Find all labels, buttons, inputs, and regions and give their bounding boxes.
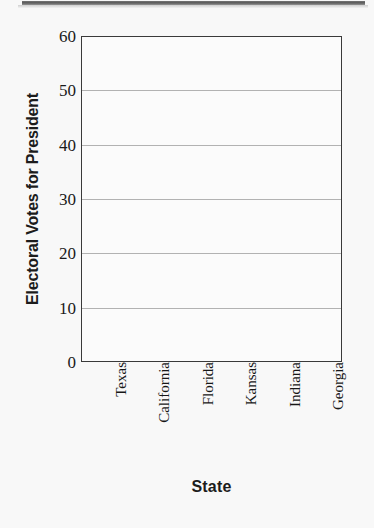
gridline [82,253,341,254]
y-tick-label: 10 [32,300,76,317]
y-tick-label: 40 [32,137,76,154]
x-axis-title: State [81,478,342,496]
y-tick-label: 60 [32,28,76,45]
y-tick-label: 0 [32,354,76,371]
x-axis-tick-labels: TexasCaliforniaFloridaKansasIndianaGeorg… [81,362,342,458]
y-tick-label: 50 [32,82,76,99]
y-tick-label: 20 [32,245,76,262]
x-tick-label: Florida [199,362,217,458]
x-tick-label: Indiana [286,362,304,458]
chart-page: Electoral Votes for President 6050403020… [0,0,374,528]
gridline [82,90,341,91]
gridline [82,145,341,146]
plot-area [81,36,342,362]
y-tick-label: 30 [32,191,76,208]
x-tick-label: California [155,362,173,458]
x-tick-label: Kansas [242,362,260,458]
scanned-page-edge-shadow [18,5,368,8]
y-axis-tick-labels: 6050403020100 [28,36,76,362]
gridline [82,308,341,309]
x-tick-label: Georgia [329,362,347,458]
gridline [82,199,341,200]
x-tick-label: Texas [112,362,130,458]
